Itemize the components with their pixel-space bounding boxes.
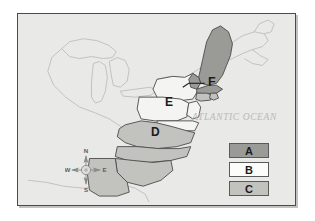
region-label-e: E bbox=[165, 96, 173, 108]
legend-item-c[interactable]: C bbox=[229, 181, 269, 196]
compass-west-label: W bbox=[65, 166, 71, 173]
compass-north-label: N bbox=[84, 147, 89, 154]
compass-east-label: E bbox=[102, 166, 106, 173]
map-legend: A B C bbox=[229, 143, 269, 196]
compass-rose-graphic: N S E W bbox=[65, 147, 107, 193]
region-label-d: D bbox=[151, 126, 160, 138]
region-label-f: F bbox=[208, 76, 216, 89]
legend-item-b[interactable]: B bbox=[229, 162, 269, 177]
legend-label-c: C bbox=[245, 183, 253, 195]
atlantic-ocean-label: ATLANTIC OCEAN bbox=[192, 112, 277, 122]
colonies-f-group bbox=[196, 93, 219, 101]
compass-rose: N S E W bbox=[65, 147, 107, 193]
legend-item-a[interactable]: A bbox=[229, 143, 269, 158]
region-pennsylvania bbox=[137, 97, 189, 121]
region-rhode-island bbox=[210, 93, 219, 100]
legend-label-a: A bbox=[245, 145, 253, 157]
legend-label-b: B bbox=[245, 164, 253, 176]
compass-south-label: S bbox=[84, 186, 88, 193]
map-panel: ATLANTIC OCEAN E D F bbox=[17, 13, 296, 206]
screenshot-canvas: ATLANTIC OCEAN E D F bbox=[0, 0, 315, 221]
